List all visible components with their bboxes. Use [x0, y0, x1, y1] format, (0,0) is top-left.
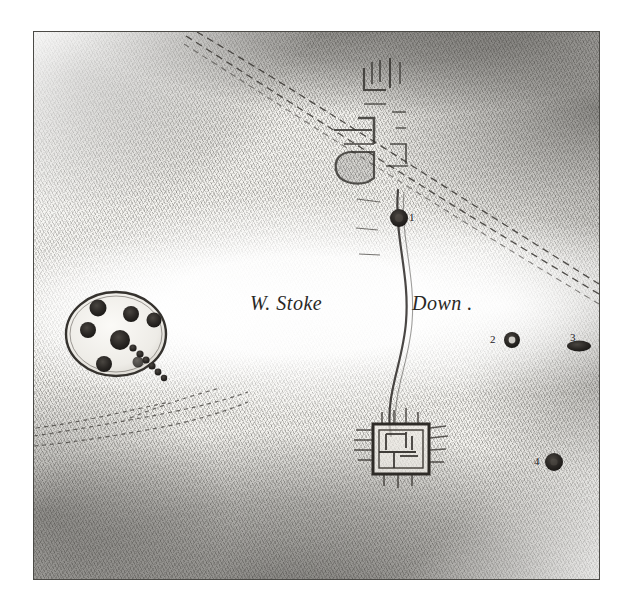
- rectangular-earthwork-enclosure: [354, 408, 448, 488]
- marker-number-1: 1: [409, 211, 415, 223]
- dashed-trackway-diagonal: [186, 32, 599, 294]
- map-label-down: Down .: [412, 292, 473, 315]
- dashed-trackway-diagonal-lower: [184, 44, 599, 304]
- winding-lane: [389, 190, 412, 436]
- map-label-west-stoke: W. Stoke: [250, 292, 322, 315]
- marker-number-4: 4: [534, 455, 540, 467]
- map-page: W. Stoke Down . 1 2 3 4: [0, 0, 625, 614]
- marker-number-3: 3: [570, 331, 576, 343]
- converging-trackways-southwest: [34, 388, 248, 446]
- lane-cross-ticks: [356, 199, 380, 255]
- marker-number-2: 2: [490, 333, 496, 345]
- faint-earthwork-sketch: [334, 58, 408, 184]
- marker-barrow-2[interactable]: [504, 332, 520, 348]
- marker-barrow-1[interactable]: [390, 209, 408, 227]
- marker-barrow-4[interactable]: [545, 453, 563, 471]
